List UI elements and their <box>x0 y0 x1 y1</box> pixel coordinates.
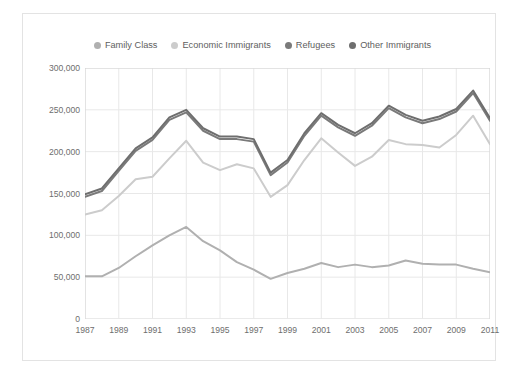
chart-legend: Family ClassEconomic ImmigrantsRefugeesO… <box>0 36 525 54</box>
y-axis-tick-label: 100,000 <box>49 230 80 240</box>
x-axis-tick-label: 1991 <box>143 325 162 335</box>
x-axis-tick-label: 2007 <box>413 325 432 335</box>
legend-swatch-icon <box>94 42 101 49</box>
y-axis-tick-label: 250,000 <box>49 105 80 115</box>
legend-swatch-icon <box>349 42 356 49</box>
x-axis-tick-label: 1989 <box>109 325 128 335</box>
legend-label: Other Immigrants <box>360 40 431 50</box>
legend-label: Economic Immigrants <box>182 40 270 50</box>
legend-item[interactable]: Other Immigrants <box>349 40 431 50</box>
x-axis-tick-label: 2003 <box>345 325 364 335</box>
legend-label: Refugees <box>296 40 335 50</box>
x-axis-tick-label: 2011 <box>481 325 499 335</box>
y-axis-tick-label: 150,000 <box>49 189 80 199</box>
x-axis: 1987198919911993199519971999200120032005… <box>85 325 490 341</box>
legend-item[interactable]: Economic Immigrants <box>171 40 270 50</box>
x-axis-tick-label: 2005 <box>379 325 398 335</box>
x-axis-tick-label: 1987 <box>75 325 94 335</box>
y-axis: 050,000100,000150,000200,000250,000300,0… <box>30 68 80 319</box>
plot-svg <box>85 68 490 319</box>
y-axis-tick-label: 50,000 <box>54 272 80 282</box>
legend-swatch-icon <box>285 42 292 49</box>
legend-swatch-icon <box>171 42 178 49</box>
legend-label: Family Class <box>105 40 158 50</box>
legend-item[interactable]: Family Class <box>94 40 158 50</box>
x-axis-tick-label: 1993 <box>177 325 196 335</box>
y-axis-tick-label: 300,000 <box>49 63 80 73</box>
x-axis-tick-label: 2001 <box>312 325 331 335</box>
x-axis-tick-label: 1997 <box>244 325 263 335</box>
y-axis-tick-label: 200,000 <box>49 147 80 157</box>
x-axis-tick-label: 2009 <box>447 325 466 335</box>
x-axis-tick-label: 1995 <box>210 325 229 335</box>
gridlines <box>85 68 490 319</box>
legend-item[interactable]: Refugees <box>285 40 335 50</box>
chart-container: Family ClassEconomic ImmigrantsRefugeesO… <box>0 0 525 375</box>
y-axis-tick-label: 0 <box>75 314 80 324</box>
plot-area <box>85 68 490 319</box>
x-axis-tick-label: 1999 <box>278 325 297 335</box>
